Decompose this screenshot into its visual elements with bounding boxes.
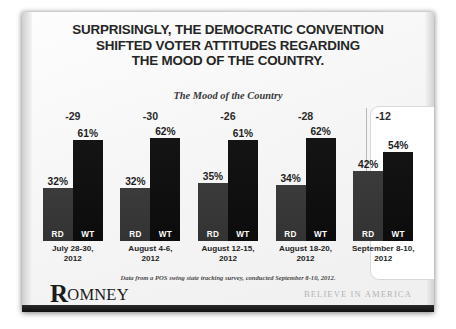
- bar-rd[interactable]: 34%RD: [276, 185, 306, 241]
- date-line-2: 2012: [267, 254, 345, 264]
- brand-row: R OMNEY BELIEVE IN AMERICA: [22, 284, 434, 306]
- chart-group: -1242%RD54%WTSeptember 8-10,2012: [344, 108, 422, 268]
- campaign-tagline: BELIEVE IN AMERICA: [304, 289, 412, 299]
- chart-group: -2834%RD62%WTAugust 18-20,2012: [267, 108, 345, 268]
- date-line-2: 2012: [112, 254, 190, 264]
- group-plot-area: 42%RD54%WT: [344, 125, 422, 241]
- source-footnote: Data from a POS swing state tracking sur…: [22, 274, 434, 281]
- title-line-2: SHIFTED VOTER ATTITUDES REGARDING: [22, 38, 434, 54]
- bar-pair: 42%RD54%WT: [344, 125, 422, 241]
- bar-series-label: WT: [159, 230, 172, 241]
- bar-wt[interactable]: 61%WT: [73, 140, 103, 241]
- bar-column: 54%WT: [383, 125, 413, 241]
- romney-logo: R OMNEY: [50, 284, 129, 306]
- bar-series-label: RD: [207, 230, 219, 241]
- date-line-1: August 4-6,: [112, 244, 190, 254]
- date-line-1: August 18-20,: [267, 244, 345, 254]
- category-date-label: August 4-6,2012: [112, 241, 190, 268]
- bar-series-label: RD: [362, 230, 374, 241]
- logo-initial: R: [50, 284, 68, 303]
- net-margin-label: -26: [189, 108, 267, 125]
- bar-wt[interactable]: 61%WT: [228, 140, 258, 241]
- chart-group: -2932%RD61%WTJuly 28-30,2012: [34, 108, 112, 268]
- date-line-2: 2012: [344, 254, 422, 264]
- bar-column: 61%WT: [73, 125, 103, 241]
- net-margin-label: -30: [112, 108, 190, 125]
- date-line-1: July 28-30,: [34, 244, 112, 254]
- logo-wordmark: OMNEY: [67, 284, 129, 306]
- bar-column: 61%WT: [228, 125, 258, 241]
- bar-rd[interactable]: 32%RD: [43, 188, 73, 241]
- chart-group: -2635%RD61%WTAugust 12-15,2012: [189, 108, 267, 268]
- bar-chart: -2932%RD61%WTJuly 28-30,2012-3032%RD62%W…: [34, 108, 422, 268]
- title-line-3: THE MOOD OF THE COUNTRY.: [22, 53, 434, 69]
- slide-footer-bar: [22, 305, 434, 312]
- bar-value-label: 35%: [198, 171, 228, 182]
- category-date-label: August 18-20,2012: [267, 241, 345, 268]
- chart-subtitle: The Mood of the Country: [22, 90, 434, 101]
- bar-pair: 32%RD61%WT: [34, 125, 112, 241]
- bar-series-label: WT: [81, 230, 94, 241]
- bar-series-label: RD: [52, 230, 64, 241]
- bar-series-label: RD: [284, 230, 296, 241]
- bar-series-label: WT: [236, 230, 249, 241]
- net-margin-label: -12: [344, 108, 422, 125]
- title-line-1: SURPRISINGLY, THE DEMOCRATIC CONVENTION: [22, 22, 434, 38]
- bar-column: 32%RD: [120, 125, 150, 241]
- bar-column: 32%RD: [43, 125, 73, 241]
- bar-pair: 35%RD61%WT: [189, 125, 267, 241]
- bar-value-label: 34%: [276, 173, 306, 184]
- bar-series-label: WT: [314, 230, 327, 241]
- bar-column: 35%RD: [198, 125, 228, 241]
- chart-groups: -2932%RD61%WTJuly 28-30,2012-3032%RD62%W…: [34, 108, 422, 268]
- bar-value-label: 61%: [228, 128, 258, 139]
- bar-value-label: 32%: [120, 176, 150, 187]
- presentation-slide: SURPRISINGLY, THE DEMOCRATIC CONVENTION …: [22, 12, 434, 312]
- date-line-2: 2012: [34, 254, 112, 264]
- bar-value-label: 62%: [150, 126, 180, 137]
- bar-series-label: WT: [392, 230, 405, 241]
- category-date-label: July 28-30,2012: [34, 241, 112, 268]
- slide-title: SURPRISINGLY, THE DEMOCRATIC CONVENTION …: [22, 22, 434, 69]
- bar-wt[interactable]: 62%WT: [150, 138, 180, 241]
- net-margin-label: -28: [267, 108, 345, 125]
- bar-column: 34%RD: [276, 125, 306, 241]
- date-line-2: 2012: [189, 254, 267, 264]
- category-date-label: August 12-15,2012: [189, 241, 267, 268]
- bar-pair: 34%RD62%WT: [267, 125, 345, 241]
- bar-pair: 32%RD62%WT: [112, 125, 190, 241]
- net-margin-label: -29: [34, 108, 112, 125]
- bar-value-label: 32%: [43, 176, 73, 187]
- category-date-label: September 8-10,2012: [344, 241, 422, 268]
- bar-rd[interactable]: 42%RD: [353, 171, 383, 241]
- bar-value-label: 42%: [353, 159, 383, 170]
- group-plot-area: 32%RD61%WT: [34, 125, 112, 241]
- group-plot-area: 32%RD62%WT: [112, 125, 190, 241]
- bar-column: 42%RD: [353, 125, 383, 241]
- bar-value-label: 62%: [306, 126, 336, 137]
- bar-column: 62%WT: [306, 125, 336, 241]
- group-plot-area: 35%RD61%WT: [189, 125, 267, 241]
- bar-column: 62%WT: [150, 125, 180, 241]
- group-plot-area: 34%RD62%WT: [267, 125, 345, 241]
- bar-wt[interactable]: 54%WT: [383, 152, 413, 241]
- bar-series-label: RD: [129, 230, 141, 241]
- date-line-1: August 12-15,: [189, 244, 267, 254]
- bar-value-label: 61%: [73, 128, 103, 139]
- bar-value-label: 54%: [383, 140, 413, 151]
- bar-wt[interactable]: 62%WT: [306, 138, 336, 241]
- bar-rd[interactable]: 32%RD: [120, 188, 150, 241]
- date-line-1: September 8-10,: [344, 244, 422, 254]
- bar-rd[interactable]: 35%RD: [198, 183, 228, 241]
- chart-group: -3032%RD62%WTAugust 4-6,2012: [112, 108, 190, 268]
